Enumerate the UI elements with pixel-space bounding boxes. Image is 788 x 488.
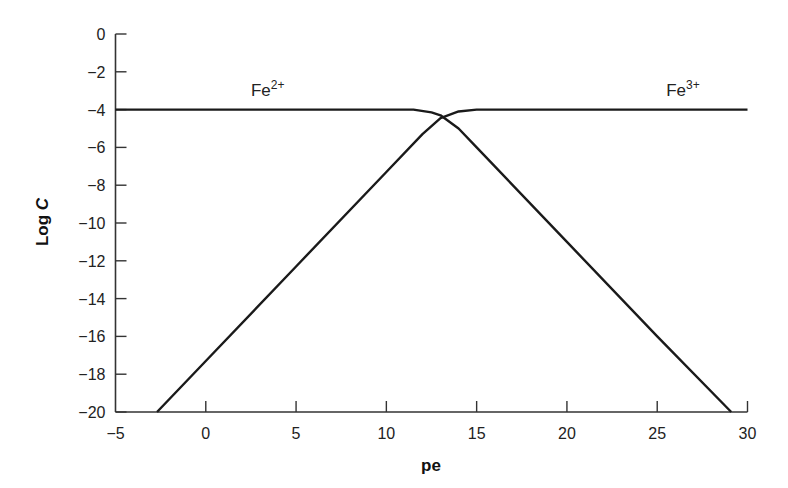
y-tick-label: −8 bbox=[87, 177, 105, 194]
axes: 0−2−4−6−8−10−12−14−16−18−20−505101520253… bbox=[78, 26, 756, 442]
y-tick-label: −20 bbox=[78, 404, 105, 421]
x-tick-label: 5 bbox=[292, 425, 301, 442]
line-Fe2plus bbox=[116, 110, 732, 412]
y-tick-label: 0 bbox=[97, 26, 106, 43]
x-tick-label: 15 bbox=[468, 425, 486, 442]
y-tick-label: −12 bbox=[78, 253, 105, 270]
y-axis-title: Log C bbox=[33, 197, 52, 246]
species-label-Fe2plus: Fe2+ bbox=[251, 78, 285, 100]
x-tick-label: 25 bbox=[648, 425, 666, 442]
line-Fe3plus bbox=[157, 110, 747, 412]
x-tick-label: 10 bbox=[377, 425, 395, 442]
y-tick-label: −6 bbox=[87, 139, 105, 156]
x-tick-label: 20 bbox=[558, 425, 576, 442]
series-lines bbox=[116, 110, 748, 412]
chart: 0−2−4−6−8−10−12−14−16−18−20−505101520253… bbox=[0, 0, 788, 488]
y-tick-label: −16 bbox=[78, 328, 105, 345]
y-tick-label: −10 bbox=[78, 215, 105, 232]
y-tick-label: −18 bbox=[78, 366, 105, 383]
x-tick-label: −5 bbox=[106, 425, 124, 442]
x-tick-label: 30 bbox=[739, 425, 757, 442]
x-tick-label: 0 bbox=[201, 425, 210, 442]
x-axis-title: pe bbox=[421, 456, 441, 475]
species-label-Fe3plus: Fe3+ bbox=[666, 78, 700, 100]
y-tick-label: −4 bbox=[87, 102, 105, 119]
y-tick-label: −14 bbox=[78, 291, 105, 308]
y-tick-label: −2 bbox=[87, 64, 105, 81]
